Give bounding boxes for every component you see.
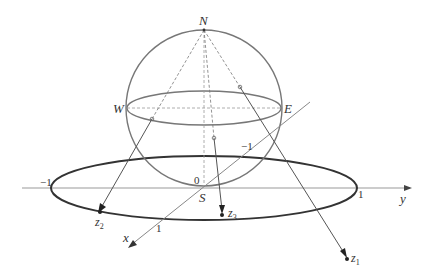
label-y-pos-one: 1 (358, 188, 364, 200)
label-z2: z2 (94, 215, 104, 231)
label-north: N (198, 13, 209, 28)
y-axis (22, 185, 412, 191)
label-east: E (283, 101, 292, 116)
label-z3: z3 (227, 206, 237, 222)
label-west: W (113, 101, 125, 116)
label-origin: 0 (194, 174, 200, 186)
label-z1: z1 (350, 251, 360, 267)
label-y-neg-one: −1 (40, 176, 52, 188)
label-x-axis: x (122, 230, 129, 245)
label-x-pos-one: 1 (156, 222, 162, 234)
label-y-axis: y (398, 191, 406, 206)
label-x-neg-one: −1 (241, 140, 253, 152)
riemann-sphere-diagram: N W E S 0 −1 1 1 −1 x y z1 z2 z3 (0, 0, 430, 273)
label-south: S (199, 190, 206, 205)
